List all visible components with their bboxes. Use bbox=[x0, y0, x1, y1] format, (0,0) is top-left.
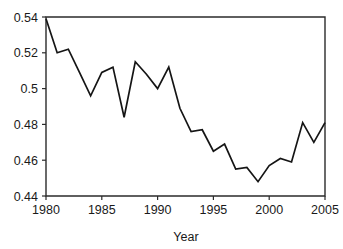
x-tick-label: 1980 bbox=[32, 203, 60, 217]
chart-container: 0.440.460.480.50.520.54 1980198519901995… bbox=[0, 0, 343, 249]
y-tick-label: 0.48 bbox=[14, 118, 38, 132]
x-axis-title: Year bbox=[173, 230, 198, 244]
y-tick-label: 0.44 bbox=[14, 190, 38, 204]
y-tick-label: 0.52 bbox=[14, 46, 38, 60]
y-tick-label: 0.5 bbox=[21, 82, 38, 96]
y-tick-label: 0.54 bbox=[14, 11, 38, 25]
x-tick-label: 1995 bbox=[199, 203, 227, 217]
x-tick-label: 1990 bbox=[144, 203, 172, 217]
x-tick-label: 1985 bbox=[88, 203, 116, 217]
x-tick-label: 2005 bbox=[311, 203, 339, 217]
x-tick-label: 2000 bbox=[255, 203, 283, 217]
y-tick-label: 0.46 bbox=[14, 154, 38, 168]
line-chart: 0.440.460.480.50.520.54 1980198519901995… bbox=[0, 0, 343, 249]
